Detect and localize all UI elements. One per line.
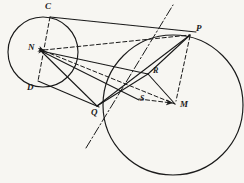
segment-r-m (148, 74, 175, 104)
segment-n-r (41, 51, 148, 74)
large-circle-right (103, 35, 243, 175)
diagram-canvas: C N D Q P R S M (0, 0, 244, 183)
point-label-q: Q (91, 108, 98, 117)
point-label-c: C (45, 2, 51, 11)
tangent-line-top (50, 17, 196, 32)
chord-c-d (38, 17, 50, 81)
tangent-line-bottom (38, 81, 99, 107)
segment-n-q (41, 51, 97, 106)
point-label-r: R (153, 67, 158, 75)
point-label-p: P (196, 24, 202, 33)
point-label-d: D (27, 83, 34, 92)
segment-n-s (41, 51, 139, 100)
geometry-figure (0, 0, 244, 183)
segment-n-p (44, 35, 190, 50)
point-label-n: N (28, 43, 35, 52)
point-label-s: S (140, 95, 144, 103)
dash-dot-axis (86, 5, 173, 148)
point-label-m: M (180, 100, 188, 109)
